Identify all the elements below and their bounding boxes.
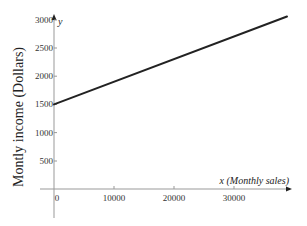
y-tick-labels: 500 1000 1500 2000 2500 3000 — [35, 15, 54, 166]
y-tick-label: 2000 — [35, 71, 54, 81]
x-axis-title: x (Monthly sales) — [219, 175, 290, 187]
y-tick-label: 1500 — [35, 99, 54, 109]
x-tick-label: 10000 — [103, 193, 126, 203]
x-axis-arrow-icon — [286, 187, 292, 192]
y-tick-label: 500 — [40, 156, 54, 166]
x-tick-label: 30000 — [223, 193, 246, 203]
x-tick-labels: 0 10000 20000 30000 — [55, 193, 246, 203]
y-axis-symbol: y — [57, 16, 63, 27]
x-tick-label: 0 — [55, 193, 60, 203]
y-axis-title: Montly income (Dollars) — [11, 47, 27, 187]
chart: 500 1000 1500 2000 2500 3000 y 0 10000 2… — [0, 0, 307, 226]
income-line — [54, 17, 287, 105]
x-tick-label: 20000 — [163, 193, 186, 203]
y-tick-label: 3000 — [35, 15, 54, 25]
y-tick-label: 2500 — [35, 43, 54, 53]
y-tick-label: 1000 — [35, 128, 54, 138]
